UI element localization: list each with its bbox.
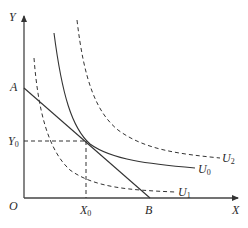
indifference-curve-u1 — [34, 58, 175, 192]
budget-line — [24, 88, 150, 198]
u2-label: U2 — [222, 151, 235, 166]
x0-label: X0 — [79, 203, 91, 218]
u0-label: U0 — [198, 162, 211, 177]
x-axis-label: X — [231, 203, 240, 217]
consumer-equilibrium-diagram: Y X O A B Y0 X0 U0 U1 U2 — [0, 0, 248, 228]
origin-label: O — [9, 199, 18, 213]
y0-label: Y0 — [8, 134, 19, 149]
u1-label: U1 — [178, 185, 191, 200]
indifference-curve-u2 — [77, 20, 220, 158]
point-b-label: B — [145, 203, 153, 217]
point-a-label: A — [9, 80, 18, 94]
y-axis-label: Y — [9, 10, 17, 24]
indifference-curve-u0 — [54, 33, 195, 168]
